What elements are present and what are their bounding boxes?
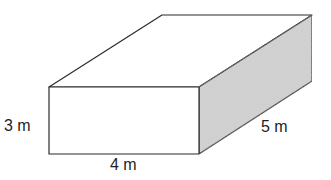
height-label: 3 m xyxy=(4,118,31,134)
depth-label: 5 m xyxy=(261,119,288,135)
front-face xyxy=(49,87,199,154)
width-label: 4 m xyxy=(110,157,137,173)
rectangular-prism-diagram xyxy=(0,0,331,180)
